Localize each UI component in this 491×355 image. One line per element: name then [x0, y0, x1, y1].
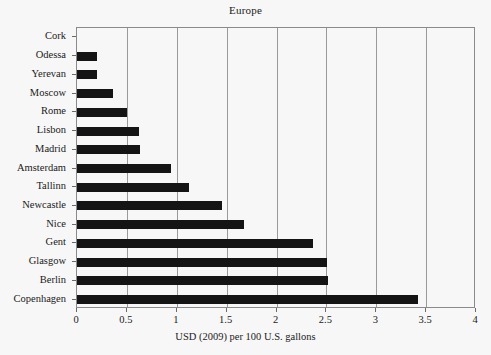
- bar: [77, 52, 97, 61]
- y-axis-label: Gent: [0, 236, 72, 247]
- bar: [77, 183, 189, 192]
- bar-row: [77, 84, 474, 103]
- plot-area: [76, 27, 475, 308]
- x-axis-tick: [475, 308, 476, 312]
- bar-row: [77, 140, 474, 159]
- bar: [77, 108, 127, 117]
- y-axis-label: Lisbon: [0, 124, 72, 135]
- x-axis-tick: [176, 308, 177, 312]
- chart-title: Europe: [0, 4, 491, 16]
- x-axis-tick-label: 0.5: [106, 314, 146, 325]
- bar-row: [77, 103, 474, 122]
- bar: [77, 164, 171, 173]
- x-axis-tick: [126, 308, 127, 312]
- x-axis-tick-label: 1: [156, 314, 196, 325]
- y-axis-label: Nice: [0, 218, 72, 229]
- bar: [77, 70, 97, 79]
- bar-row: [77, 197, 474, 216]
- x-axis-tick-label: 4: [455, 314, 491, 325]
- y-axis-label: Odessa: [0, 49, 72, 60]
- bar: [77, 89, 113, 98]
- x-axis-tick: [375, 308, 376, 312]
- bar-row: [77, 215, 474, 234]
- x-axis-tick: [226, 308, 227, 312]
- x-axis-tick: [76, 308, 77, 312]
- bar-row: [77, 290, 474, 309]
- bar-row: [77, 253, 474, 272]
- bar: [77, 295, 418, 304]
- bar-row: [77, 65, 474, 84]
- bar-row: [77, 272, 474, 291]
- x-axis-tick-label: 3.5: [405, 314, 445, 325]
- x-axis-tick-label: 1.5: [206, 314, 246, 325]
- y-axis-label: Newcastle: [0, 199, 72, 210]
- x-axis-tick: [325, 308, 326, 312]
- y-axis-label: Amsterdam: [0, 162, 72, 173]
- x-axis-tick-label: 0: [56, 314, 96, 325]
- y-axis-label: Rome: [0, 105, 72, 116]
- y-axis-label: Cork: [0, 30, 72, 41]
- bar: [77, 258, 327, 267]
- x-axis-tick: [276, 308, 277, 312]
- y-axis-label: Copenhagen: [0, 293, 72, 304]
- y-axis-label: Yerevan: [0, 68, 72, 79]
- bars-layer: [77, 28, 474, 307]
- y-axis-label: Glasgow: [0, 255, 72, 266]
- y-axis-label: Tallinn: [0, 180, 72, 191]
- bar: [77, 145, 140, 154]
- bar-chart: Europe CorkOdessaYerevanMoscowRomeLisbon…: [0, 0, 491, 355]
- bar-row: [77, 122, 474, 141]
- bar-row: [77, 47, 474, 66]
- bar-row: [77, 159, 474, 178]
- y-axis-label: Berlin: [0, 274, 72, 285]
- bar-row: [77, 178, 474, 197]
- bar: [77, 220, 244, 229]
- x-axis-tick-label: 2: [256, 314, 296, 325]
- y-axis-label: Madrid: [0, 143, 72, 154]
- bar: [77, 239, 313, 248]
- bar-row: [77, 28, 474, 47]
- x-axis-tick: [425, 308, 426, 312]
- bar-row: [77, 234, 474, 253]
- bar: [77, 201, 222, 210]
- y-axis-labels: CorkOdessaYerevanMoscowRomeLisbonMadridA…: [0, 27, 72, 308]
- y-axis-label: Moscow: [0, 87, 72, 98]
- x-axis-tick-label: 3: [355, 314, 395, 325]
- bar: [77, 127, 139, 136]
- x-axis-title: USD (2009) per 100 U.S. gallons: [0, 331, 491, 342]
- x-axis-tick-label: 2.5: [305, 314, 345, 325]
- bar: [77, 276, 328, 285]
